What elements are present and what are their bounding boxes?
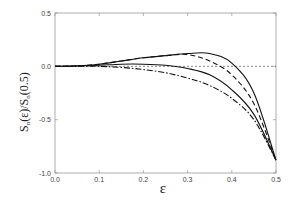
y-axis-label: Sn(ε)/Sn(0.5) xyxy=(17,72,32,132)
x-axis-label: ε xyxy=(160,180,166,196)
y-tick-label: -0.5 xyxy=(39,116,51,123)
chart: 0.00.10.20.30.40.50.50.0-0.5-1.0 Sn(ε)/S… xyxy=(0,0,295,202)
y-tick-label: -1.0 xyxy=(39,170,51,177)
y-tick-label: 0.5 xyxy=(41,10,51,17)
x-tick-label: 0.1 xyxy=(94,176,104,183)
x-tick-label: 0.5 xyxy=(271,176,281,183)
series-line-dash-dot xyxy=(55,66,276,160)
x-tick-label: 0.0 xyxy=(50,176,60,183)
plot-area: 0.00.10.20.30.40.50.50.0-0.5-1.0 xyxy=(39,10,281,184)
x-tick-label: 0.3 xyxy=(183,176,193,183)
series-line-solid-upper xyxy=(55,53,276,160)
series-line-solid-lower xyxy=(55,64,276,160)
plot-frame xyxy=(55,13,276,173)
x-tick-label: 0.4 xyxy=(227,176,237,183)
x-tick-label: 0.2 xyxy=(139,176,149,183)
y-tick-label: 0.0 xyxy=(41,63,51,70)
